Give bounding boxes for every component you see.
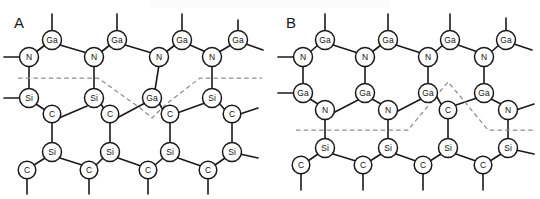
atom-c: C: [101, 105, 119, 123]
atom-ga: Ga: [43, 31, 62, 50]
atom-n: N: [356, 48, 375, 67]
svg-text:Si: Si: [504, 143, 512, 153]
atom-si: Si: [101, 143, 120, 162]
svg-text:N: N: [156, 52, 162, 62]
atom-si: Si: [161, 143, 180, 162]
svg-text:C: C: [298, 160, 304, 170]
svg-text:Ga: Ga: [382, 35, 394, 45]
svg-text:N: N: [362, 52, 368, 62]
atom-c: C: [18, 161, 36, 179]
atom-c: C: [474, 156, 492, 174]
atom-si: Si: [223, 143, 242, 162]
panel-a-atoms: Ga Ga Ga Ga N N N N Si Si Ga Si C C C C …: [18, 31, 247, 179]
panel-b: B: [278, 14, 534, 190]
svg-text:Si: Si: [25, 93, 33, 103]
svg-text:C: C: [49, 109, 55, 119]
atom-ga: Ga: [419, 84, 438, 103]
svg-text:C: C: [420, 160, 426, 170]
atom-n: N: [316, 101, 335, 120]
svg-text:Si: Si: [208, 93, 216, 103]
svg-text:N: N: [425, 52, 431, 62]
panel-a: A: [4, 14, 263, 194]
atom-ga: Ga: [475, 84, 494, 103]
svg-text:Si: Si: [384, 143, 392, 153]
atom-c: C: [199, 161, 217, 179]
atom-si: Si: [316, 139, 335, 158]
svg-text:Ga: Ga: [46, 35, 58, 45]
svg-text:Ga: Ga: [500, 35, 512, 45]
svg-text:C: C: [229, 109, 235, 119]
svg-text:Si: Si: [228, 147, 236, 157]
atom-si: Si: [499, 139, 518, 158]
svg-text:C: C: [445, 105, 451, 115]
atom-ga: Ga: [294, 84, 313, 103]
svg-text:Ga: Ga: [478, 88, 490, 98]
svg-text:Si: Si: [106, 147, 114, 157]
svg-text:N: N: [91, 52, 97, 62]
atom-si: Si: [20, 89, 39, 108]
atom-n: N: [150, 48, 169, 67]
atom-n: N: [85, 48, 104, 67]
atom-c: C: [414, 156, 432, 174]
svg-text:Si: Si: [166, 147, 174, 157]
svg-text:N: N: [385, 105, 391, 115]
svg-text:N: N: [300, 52, 306, 62]
svg-text:Si: Si: [48, 147, 56, 157]
atom-ga: Ga: [229, 31, 248, 50]
atom-c: C: [161, 105, 179, 123]
atom-si: Si: [379, 139, 398, 158]
atom-n: N: [20, 48, 39, 67]
atom-si: Si: [203, 89, 222, 108]
atom-c: C: [80, 161, 98, 179]
lattice-figure: A: [0, 0, 540, 199]
atom-n: N: [379, 101, 398, 120]
atom-n: N: [475, 48, 494, 67]
svg-text:Si: Si: [444, 143, 452, 153]
svg-text:Ga: Ga: [111, 35, 123, 45]
svg-text:C: C: [205, 165, 211, 175]
svg-text:Ga: Ga: [319, 35, 331, 45]
atom-ga: Ga: [356, 84, 375, 103]
svg-text:C: C: [480, 160, 486, 170]
svg-text:N: N: [209, 52, 215, 62]
svg-text:N: N: [481, 52, 487, 62]
svg-text:C: C: [145, 165, 151, 175]
svg-text:Ga: Ga: [444, 35, 456, 45]
svg-text:Ga: Ga: [232, 35, 244, 45]
svg-text:N: N: [322, 105, 328, 115]
atom-n: N: [203, 48, 222, 67]
atom-n: N: [419, 48, 438, 67]
svg-text:Si: Si: [321, 143, 329, 153]
atom-ga: Ga: [379, 31, 398, 50]
svg-text:C: C: [167, 109, 173, 119]
atom-n: N: [294, 48, 313, 67]
atom-si: Si: [439, 139, 458, 158]
atom-ga: Ga: [316, 31, 335, 50]
svg-text:N: N: [26, 52, 32, 62]
panel-b-label: B: [286, 14, 296, 31]
svg-text:Ga: Ga: [176, 35, 188, 45]
atom-ga: Ga: [143, 89, 162, 108]
svg-text:Si: Si: [90, 93, 98, 103]
panel-b-atoms: Ga Ga Ga Ga N N N N Ga Ga Ga Ga N N C N …: [292, 31, 517, 174]
atom-c: C: [354, 156, 372, 174]
atom-c: C: [292, 156, 310, 174]
atom-ga: Ga: [108, 31, 127, 50]
svg-text:N: N: [505, 105, 511, 115]
atom-si: Si: [85, 89, 104, 108]
svg-text:Ga: Ga: [359, 88, 371, 98]
atom-c: C: [223, 105, 241, 123]
scan-artifact: [150, 0, 390, 8]
panel-a-label: A: [14, 14, 24, 31]
svg-text:Ga: Ga: [297, 88, 309, 98]
atom-c: C: [439, 101, 457, 119]
svg-text:Ga: Ga: [422, 88, 434, 98]
atom-n: N: [499, 101, 518, 120]
atom-ga: Ga: [173, 31, 192, 50]
atom-c: C: [139, 161, 157, 179]
atom-c: C: [43, 105, 61, 123]
atom-si: Si: [43, 143, 62, 162]
atom-ga: Ga: [441, 31, 460, 50]
svg-text:C: C: [360, 160, 366, 170]
atom-ga: Ga: [497, 31, 516, 50]
